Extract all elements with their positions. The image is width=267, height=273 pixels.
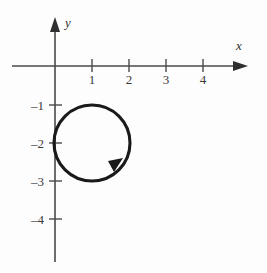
- y-axis-arrowhead: [50, 17, 60, 32]
- y-tick-label-minus-3: –3: [20, 175, 44, 188]
- y-tick-label-minus-1: –1: [20, 99, 44, 112]
- graph-figure: 1 2 3 4 –1 –2 –3 –4 x y: [0, 0, 267, 273]
- x-tick-label-4: 4: [193, 73, 213, 86]
- y-axis-label: y: [65, 16, 71, 29]
- y-tick-label-minus-4: –4: [20, 213, 44, 226]
- x-axis-label: x: [236, 39, 242, 52]
- x-axis-arrowhead: [233, 61, 248, 71]
- circle-curve: [54, 105, 130, 181]
- y-tick-label-minus-2: –2: [20, 137, 44, 150]
- x-tick-label-3: 3: [156, 73, 176, 86]
- x-tick-label-1: 1: [82, 73, 102, 86]
- x-tick-label-2: 2: [119, 73, 139, 86]
